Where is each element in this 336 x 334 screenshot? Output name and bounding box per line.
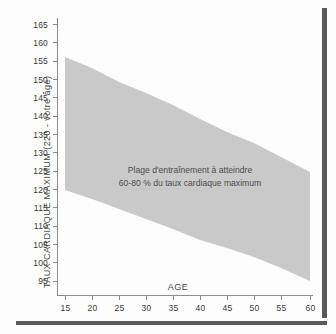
zone-annotation-line2: 60-80 % du taux cardiaque maximum [119,178,261,188]
horizontal-rule-decoration [16,321,327,325]
x-tick-marks [66,296,311,301]
heart-rate-zone-chart: 165 160 155 150 145 140 135 130 125 120 … [0,0,336,334]
zone-annotation-line1: Plage d'entraînement à atteindre [128,165,253,175]
x-tick-label: 20 [88,303,98,313]
y-tick-label: 160 [33,38,48,48]
x-tick-label: 45 [223,303,233,313]
y-tick-label: 165 [33,20,48,30]
y-axis-title: TAUX CARDIAQUE MAXIMUM (220 - votre âge) [42,76,52,288]
x-tick-label: 55 [277,303,287,313]
x-tick-label: 40 [196,303,206,313]
x-tick-labels: 15 20 25 30 35 40 45 50 55 60 [61,303,316,313]
x-tick-label: 35 [169,303,179,313]
x-axis-title: AGE [168,282,188,292]
y-tick-label: 155 [33,56,48,66]
x-tick-label: 30 [142,303,152,313]
chart-figure: 165 160 155 150 145 140 135 130 125 120 … [0,0,336,334]
x-tick-label: 60 [306,303,316,313]
y-tick-marks [53,25,58,282]
vertical-rule-decoration [322,8,327,318]
x-tick-label: 50 [250,303,260,313]
x-tick-label: 25 [115,303,125,313]
x-tick-label: 15 [61,303,71,313]
